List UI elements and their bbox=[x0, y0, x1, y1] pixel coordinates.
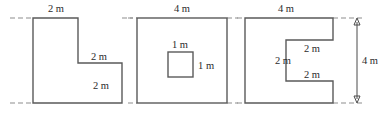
shape-c-shape bbox=[237, 18, 362, 103]
label-shape3-overall-height: 4 m bbox=[362, 55, 378, 66]
label-shape2-outer-width: 4 m bbox=[174, 3, 190, 14]
inner-square-hole-outline bbox=[168, 52, 193, 77]
geometry-figure-panel: 2 m 2 m 2 m 4 m 1 m 1 m 4 m 2 m 2 m 2 m … bbox=[0, 0, 388, 120]
label-shape3-top-width: 4 m bbox=[278, 3, 294, 14]
label-shape2-hole-width: 1 m bbox=[172, 39, 188, 50]
overall-height-arrow bbox=[354, 18, 360, 103]
geometry-canvas: 2 m 2 m 2 m 4 m 1 m 1 m 4 m 2 m 2 m 2 m … bbox=[0, 0, 388, 120]
label-shape3-notch-bottom: 2 m bbox=[304, 69, 320, 80]
label-shape1-step-width: 2 m bbox=[91, 51, 107, 62]
shape-l-shape bbox=[10, 18, 133, 103]
label-shape1-top-width: 2 m bbox=[48, 3, 64, 14]
label-shape3-notch-top: 2 m bbox=[304, 43, 320, 54]
label-shape3-notch-left: 2 m bbox=[275, 55, 291, 66]
label-shape1-right-height: 2 m bbox=[93, 80, 109, 91]
label-shape2-hole-height: 1 m bbox=[198, 60, 214, 71]
shape-square-with-hole bbox=[128, 18, 238, 103]
